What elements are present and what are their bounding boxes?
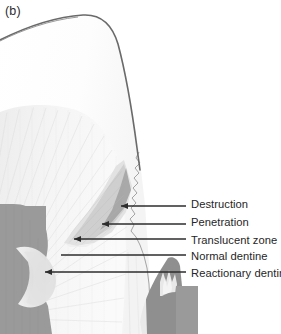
tooth-cross-section-illustration <box>0 0 281 334</box>
callout-label-reactionary-dentine: Reactionary dentine <box>191 267 281 279</box>
callout-label-normal-dentine: Normal dentine <box>191 250 268 262</box>
panel-label: (b) <box>5 4 21 18</box>
callout-label-translucent-zone: Translucent zone <box>191 234 277 246</box>
figure-panel-b: (b) Destruction Penetration Translucent … <box>0 0 281 334</box>
callout-label-destruction: Destruction <box>191 198 248 210</box>
callout-label-penetration: Penetration <box>191 216 249 228</box>
